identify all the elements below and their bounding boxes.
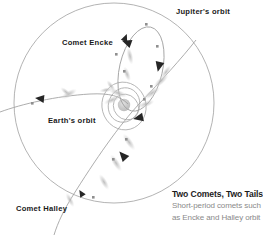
jupiter-orbit-path: [14, 3, 214, 203]
caption-description: Short-period comets such as Encke and Ha…: [172, 200, 263, 223]
caption-line-2: as Encke and Halley orbit: [172, 212, 263, 223]
caption-line-1: Short-period comets such: [172, 200, 263, 211]
label-earths-orbit: Earth's orbit: [48, 117, 96, 125]
comet-orbit-diagram-figure: Jupiter's orbit Comet Encke Earth's orbi…: [0, 0, 263, 235]
label-comet-encke: Comet Encke: [62, 39, 113, 47]
caption-title: Two Comets, Two Tails: [172, 190, 263, 199]
comet-nucleus-marker-group: [31, 23, 159, 199]
figure-caption: Two Comets, Two Tails Short-period comet…: [172, 190, 263, 223]
label-jupiters-orbit: Jupiter's orbit: [176, 8, 230, 16]
label-comet-halley: Comet Halley: [16, 205, 67, 213]
